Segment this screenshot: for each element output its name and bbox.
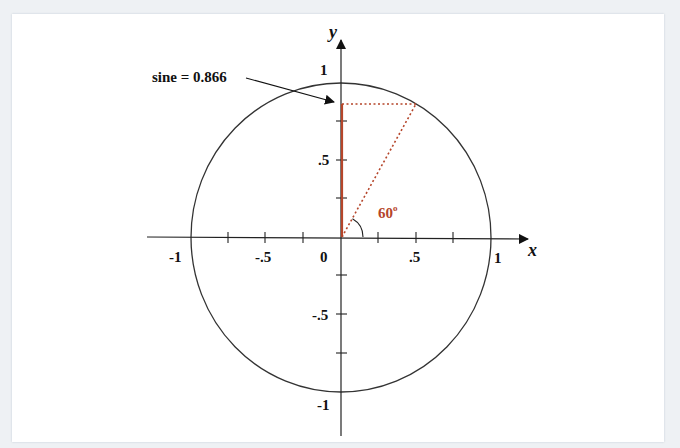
angle-arc [353,219,364,237]
y-tick-label-1: 1 [320,62,328,78]
y-tick-label-neg05: -.5 [312,307,328,323]
x-tick-label-05: .5 [409,249,420,265]
y-tick-label-05: .5 [318,152,329,168]
unit-circle-diagram: sine = 0.866 60o y x -1 -.5 0 .5 1 1 .5 … [0,0,680,448]
x-tick-label-1: 1 [494,250,502,266]
x-tick-label-neg05: -.5 [255,249,271,265]
y-axis-label: y [327,22,338,42]
y-tick-label-neg1: -1 [317,397,330,413]
sine-annotation-label: sine = 0.866 [152,69,227,85]
x-axis-label: x [527,240,537,260]
x-tick-label-0: 0 [320,249,328,265]
x-axis [147,237,528,239]
angle-label: 60o [378,203,398,221]
annotation-arrow [246,78,334,102]
x-tick-label-neg1: -1 [169,249,182,265]
